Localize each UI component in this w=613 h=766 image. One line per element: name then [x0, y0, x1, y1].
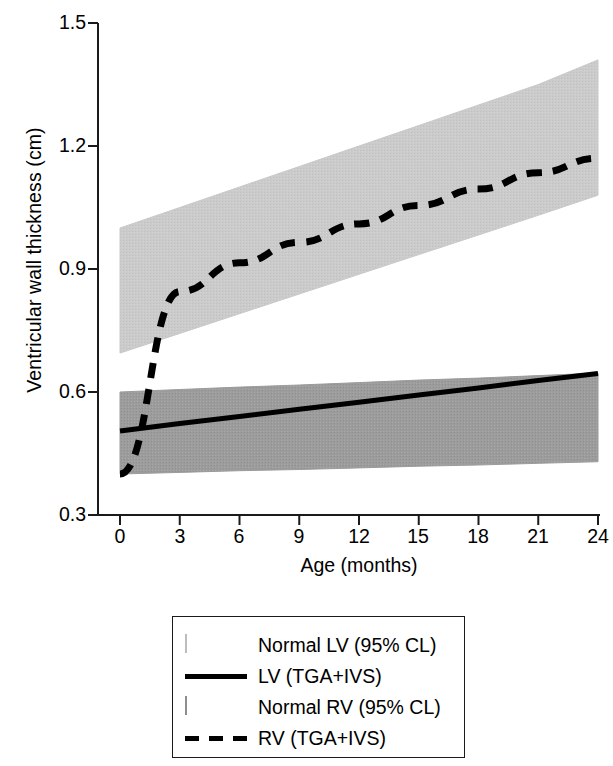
- legend-label: LV (TGA+IVS): [258, 666, 382, 686]
- legend-label: Normal LV (95% CL): [258, 635, 436, 655]
- chart-legend: Normal LV (95% CL) LV (TGA+IVS) Normal R…: [172, 616, 465, 758]
- legend-swatch-normal-rv: [185, 697, 247, 717]
- legend-item-normal-rv: Normal RV (95% CL): [185, 691, 464, 722]
- legend-swatch-normal-lv: [185, 635, 247, 655]
- legend-item-lv-tga-ivs: LV (TGA+IVS): [185, 660, 464, 691]
- confidence-bands: [120, 60, 598, 474]
- legend-label: RV (TGA+IVS): [258, 728, 386, 748]
- legend-item-rv-tga-ivs: RV (TGA+IVS): [185, 722, 464, 753]
- plot-area: [0, 0, 613, 560]
- legend-label: Normal RV (95% CL): [258, 697, 441, 717]
- legend-solid-line-key: [185, 666, 247, 686]
- legend-dashed-line-key: [185, 728, 247, 748]
- band-normal-lv: [120, 60, 598, 353]
- chart-figure: Ventricular wall thickness (cm) Age (mon…: [0, 0, 613, 766]
- legend-item-normal-lv: Normal LV (95% CL): [185, 629, 464, 660]
